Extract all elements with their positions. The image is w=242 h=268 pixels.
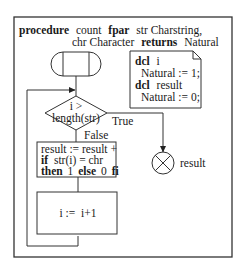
procedure-frame bbox=[14, 17, 232, 257]
decision-line1: i > bbox=[70, 100, 83, 112]
task1-line3: then 1 else 0 fi bbox=[41, 165, 119, 177]
task2-text: i := i+1 bbox=[60, 207, 97, 219]
true-label: True bbox=[112, 115, 133, 127]
decision-line2: length(str) bbox=[52, 112, 100, 125]
decl-line2: Natural := 1; bbox=[141, 67, 200, 79]
return-label: result bbox=[180, 157, 206, 169]
false-label: False bbox=[84, 129, 108, 141]
decl-line3: dcl result bbox=[135, 79, 183, 91]
decl-line4: Natural := 0; bbox=[141, 91, 200, 103]
sdl-procedure-diagram: procedure count fpar str Charstring, chr… bbox=[0, 0, 242, 268]
decl-line1: dcl i bbox=[135, 55, 160, 67]
procedure-header-line2: chr Character returns Natural bbox=[72, 36, 219, 48]
